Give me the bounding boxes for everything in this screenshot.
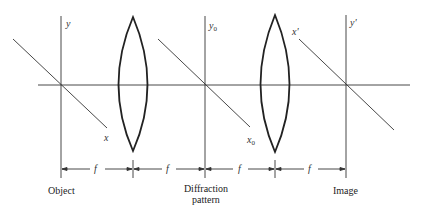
image-plane-x-axis	[299, 39, 394, 130]
diffraction-x-label: x0	[247, 134, 255, 149]
diffraction-plane-x-axis	[158, 39, 250, 127]
distance-label-1: f	[94, 163, 97, 174]
distance-label-2: f	[166, 163, 169, 174]
object-x-label: x	[104, 132, 108, 143]
image-x-label: x'	[292, 26, 299, 37]
lens-2	[261, 15, 290, 152]
image-y-label: y'	[350, 17, 357, 28]
object-plane-x-axis	[13, 39, 107, 128]
dimension-lines	[62, 168, 345, 171]
diffraction-y-label: y0	[209, 20, 217, 35]
diffraction-pattern-label: Diffraction pattern	[182, 183, 230, 205]
image-label: Image	[333, 185, 358, 196]
distance-label-3: f	[238, 163, 241, 174]
object-y-label: y	[66, 18, 70, 29]
lens-1	[119, 17, 148, 151]
object-label: Object	[48, 185, 75, 196]
distance-label-4: f	[308, 163, 311, 174]
